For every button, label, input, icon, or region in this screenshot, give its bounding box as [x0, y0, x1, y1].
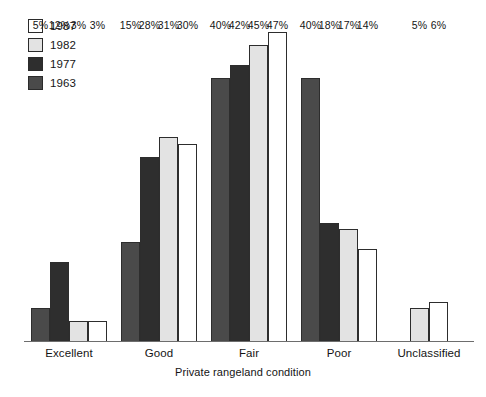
bar-column: 30%	[178, 32, 197, 341]
bar: 3%	[69, 321, 88, 341]
category-label: Unclassified	[384, 347, 474, 360]
category-label: Fair	[204, 347, 294, 360]
bar: 14%	[358, 249, 377, 341]
bar: 12%	[50, 262, 69, 341]
bar-group: 5%12%3%3%Excellent	[24, 0, 114, 397]
bar-stack: 15%28%31%30%	[121, 32, 197, 341]
bar-value-label: 5%	[412, 19, 427, 31]
bar-column: 3%	[88, 32, 107, 341]
bar-value-label: 3%	[71, 19, 86, 31]
bar: 42%	[230, 65, 249, 341]
bar-stack: 40%18%17%14%	[301, 32, 377, 341]
bar: 5%	[410, 308, 429, 341]
bar-value-label: 30%	[177, 19, 198, 31]
bar-value-label: 12%	[49, 19, 70, 31]
bar: 28%	[140, 157, 159, 341]
x-axis-title: Private rangeland condition	[0, 366, 486, 379]
bar-value-label: 14%	[357, 19, 378, 31]
bar-chart: 1987198219771963 5%12%3%3%Excellent15%28…	[0, 0, 486, 397]
bar: 3%	[88, 321, 107, 341]
bar-column: 3%	[69, 32, 88, 341]
bar: 18%	[320, 223, 339, 341]
bar-column: 14%	[358, 32, 377, 341]
bar-column: 40%	[301, 32, 320, 341]
bar-column: 18%	[320, 32, 339, 341]
bar-stack: 40%42%45%47%	[211, 32, 287, 341]
bar-column: 12%	[50, 32, 69, 341]
bar-column: 42%	[230, 32, 249, 341]
category-label: Good	[114, 347, 204, 360]
bar: 30%	[178, 144, 197, 341]
bar-stack: 5%6%	[410, 32, 448, 341]
bar: 17%	[339, 229, 358, 341]
plot-area: 5%12%3%3%Excellent15%28%31%30%Good40%42%…	[0, 0, 486, 397]
bar-group: 40%18%17%14%Poor	[294, 0, 384, 397]
bar-value-label: 47%	[267, 19, 288, 31]
bar-column: 47%	[268, 32, 287, 341]
bar-value-label: 6%	[431, 19, 446, 31]
bar: 40%	[301, 78, 320, 341]
bar-column: 15%	[121, 32, 140, 341]
bar-column: 45%	[249, 32, 268, 341]
bar-group: 15%28%31%30%Good	[114, 0, 204, 397]
bar: 31%	[159, 137, 178, 341]
bar: 45%	[249, 45, 268, 341]
bar-column: 5%	[31, 32, 50, 341]
bar: 6%	[429, 302, 448, 341]
bar-value-label: 3%	[90, 19, 105, 31]
category-label: Poor	[294, 347, 384, 360]
bar: 40%	[211, 78, 230, 341]
bar-column: 6%	[429, 32, 448, 341]
bar-group: 5%6%Unclassified	[384, 0, 474, 397]
bar-column: 40%	[211, 32, 230, 341]
bar-column: 28%	[140, 32, 159, 341]
bar-column: 31%	[159, 32, 178, 341]
category-label: Excellent	[24, 347, 114, 360]
bar-column: 5%	[410, 32, 429, 341]
bar: 47%	[268, 32, 287, 341]
bar-group: 40%42%45%47%Fair	[204, 0, 294, 397]
bar-column: 17%	[339, 32, 358, 341]
bar-value-label: 5%	[33, 19, 48, 31]
bar: 5%	[31, 308, 50, 341]
bar: 15%	[121, 242, 140, 341]
bar-stack: 5%12%3%3%	[31, 32, 107, 341]
